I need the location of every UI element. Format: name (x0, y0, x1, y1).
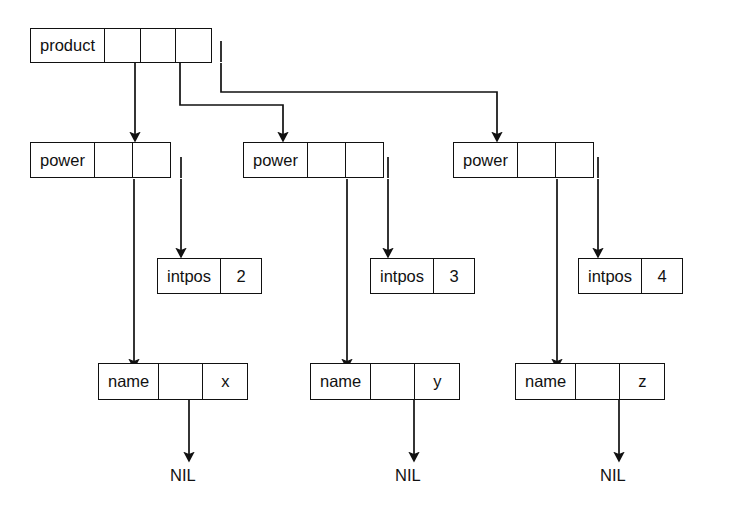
node-product-label: product (31, 29, 105, 62)
node-name-3-pointer[interactable] (576, 364, 620, 399)
node-intpos-2-value: 3 (434, 259, 474, 293)
node-power-2-pointer-1[interactable] (308, 143, 346, 177)
node-intpos-1-value: 2 (221, 259, 261, 293)
node-power-1-pointer-2[interactable] (133, 143, 170, 177)
arrow-product-to-power3 (221, 63, 497, 137)
node-power-3-pointer-2[interactable] (556, 143, 593, 177)
node-power-2-pointer-2[interactable] (346, 143, 383, 177)
node-name-3-label: name (516, 364, 576, 399)
node-name-2-pointer[interactable] (371, 364, 415, 399)
node-name-1-value: x (203, 364, 247, 399)
node-intpos-2-label: intpos (371, 259, 434, 293)
node-intpos-2[interactable]: intpos 3 (370, 258, 475, 294)
node-power-3-pointer-1[interactable] (518, 143, 556, 177)
diagram-canvas: product power power power intpos 2 intpo… (0, 0, 732, 522)
arrow-product-to-power2 (180, 63, 283, 137)
node-product[interactable]: product (30, 28, 212, 63)
nil-terminal-3: NIL (600, 467, 626, 484)
node-name-1-pointer[interactable] (159, 364, 203, 399)
node-power-3[interactable]: power (453, 142, 594, 178)
nil-terminal-2: NIL (395, 467, 421, 484)
node-name-2-value: y (415, 364, 459, 399)
node-intpos-3-label: intpos (579, 259, 642, 293)
node-product-pointer-2[interactable] (141, 29, 176, 62)
node-name-3[interactable]: name z (515, 363, 665, 400)
node-name-2[interactable]: name y (310, 363, 460, 400)
nil-terminal-1: NIL (170, 467, 196, 484)
node-power-1[interactable]: power (30, 142, 171, 178)
node-intpos-1-label: intpos (158, 259, 221, 293)
node-name-1[interactable]: name x (98, 363, 248, 400)
node-power-2-label: power (244, 143, 308, 177)
node-power-1-label: power (31, 143, 95, 177)
node-power-2[interactable]: power (243, 142, 384, 178)
node-name-3-value: z (620, 364, 664, 399)
node-power-3-label: power (454, 143, 518, 177)
node-power-1-pointer-1[interactable] (95, 143, 133, 177)
node-name-2-label: name (311, 364, 371, 399)
node-intpos-3[interactable]: intpos 4 (578, 258, 683, 294)
node-product-pointer-1[interactable] (105, 29, 141, 62)
node-name-1-label: name (99, 364, 159, 399)
node-intpos-3-value: 4 (642, 259, 682, 293)
node-product-pointer-3[interactable] (176, 29, 211, 62)
node-intpos-1[interactable]: intpos 2 (157, 258, 262, 294)
